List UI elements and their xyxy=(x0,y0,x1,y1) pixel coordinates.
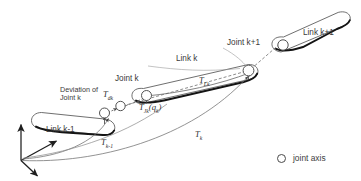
kinematics-diagram: Link k-1 Link k Link k+1 Joint k Joint k… xyxy=(0,0,361,181)
transform-label-t-lk: TLk xyxy=(199,76,209,87)
joint-circle-k-on-link-k xyxy=(142,91,152,101)
link-k-label: Link k xyxy=(176,54,197,63)
transform-label-t-k: Tk xyxy=(195,130,202,141)
t-k-sub: k xyxy=(200,135,203,141)
t-jk-arg-open: (q xyxy=(149,102,156,112)
transform-label-t-k-minus-1: Tk-1 xyxy=(101,138,113,149)
transform-label-t-dk: Tdk xyxy=(103,90,113,101)
t-dk-sub: dk xyxy=(108,95,113,101)
link-k-minus-1-label: Link k-1 xyxy=(46,125,75,134)
t-lk-sub: Lk xyxy=(204,81,210,87)
t-jk-arg-close: ) xyxy=(159,102,162,112)
t-k-minus-1-sub: k-1 xyxy=(106,143,113,149)
legend-label: joint axis xyxy=(293,153,326,163)
joint-circle-k-plus-1 xyxy=(243,65,254,76)
joint-k-label: Joint k xyxy=(115,74,139,83)
transform-label-t-jk: TJk(qk) xyxy=(139,103,161,114)
joint-circle-k-plus-1-on-link xyxy=(278,40,288,50)
joint-axis-icon xyxy=(277,154,286,163)
joint-k-plus-1-label: Joint k+1 xyxy=(227,38,260,47)
joint-circle-deviated-k xyxy=(100,108,110,118)
deviation-label-line2: Joint k xyxy=(60,94,81,102)
link-k-plus-1-label: Link k+1 xyxy=(303,28,334,37)
legend: joint axis xyxy=(277,153,326,163)
joint-circle-k xyxy=(116,101,125,110)
